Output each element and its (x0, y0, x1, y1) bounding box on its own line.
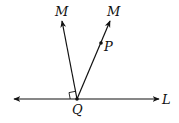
label-m-left: M (54, 4, 69, 19)
point-q (75, 97, 79, 101)
label-m-right: M (106, 4, 121, 19)
label-l: L (161, 92, 171, 107)
ray-qm-right (77, 21, 110, 99)
right-angle-marker (69, 91, 76, 99)
label-q: Q (72, 102, 83, 117)
geometry-diagram: M M P Q L (0, 0, 179, 123)
point-p (99, 41, 103, 45)
label-p: P (103, 39, 113, 54)
ray-qm-left (62, 21, 77, 99)
